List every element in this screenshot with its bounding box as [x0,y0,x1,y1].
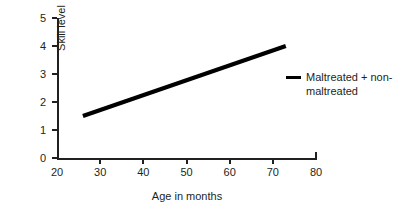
y-axis-title: Skill level [55,0,67,78]
x-tick-label: 80 [310,167,322,178]
chart-legend: Maltreated + non-maltreated [286,70,406,98]
y-tick-label: 0 [40,153,46,164]
legend-swatch-line [286,76,301,79]
x-tick-label: 50 [180,167,192,178]
legend-label: Maltreated + non-maltreated [306,70,406,98]
series-line [83,46,286,116]
x-tick-label: 20 [51,167,63,178]
chart-figure: 012345 20304050607080 Skill level Age in… [0,0,406,214]
plot-area: 012345 20304050607080 Skill level Age in… [57,18,316,158]
series-layer [57,18,317,160]
y-tick-label: 5 [40,13,46,24]
x-tick-label: 70 [267,167,279,178]
y-tick-label: 2 [40,97,46,108]
x-tick-label: 60 [224,167,236,178]
y-tick-label: 4 [40,41,46,52]
y-tick-label: 1 [40,125,46,136]
x-tick-label: 30 [94,167,106,178]
y-tick-label: 3 [40,69,46,80]
x-axis-title: Age in months [57,190,317,202]
x-tick-label: 40 [137,167,149,178]
